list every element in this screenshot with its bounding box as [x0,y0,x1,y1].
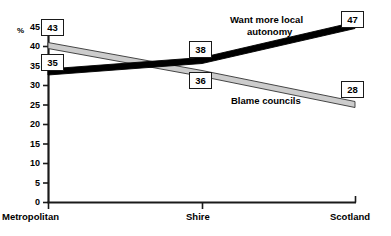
y-tick-label-20: 20 [14,119,40,129]
line-chart: % 45 40 35 30 25 20 15 10 5 0 Metropolit… [0,0,391,236]
data-label-autonomy-scotland: 47 [341,11,364,28]
y-tick-label-15: 15 [14,139,40,149]
x-category-label-metropolitan: Metropolitan [2,211,59,222]
data-label-blame-scotland: 28 [341,81,364,98]
y-tick-label-10: 10 [14,158,40,168]
data-label-autonomy-metropolitan: 35 [41,54,64,71]
y-tick-label-40: 40 [14,41,40,51]
data-label-blame-metropolitan: 43 [41,19,64,36]
y-tick-label-45: 45 [14,22,40,32]
y-tick-label-5: 5 [14,178,40,188]
series-annotation-autonomy-line1: Want more local [230,14,303,25]
x-category-label-shire: Shire [186,211,210,222]
y-tick-label-25: 25 [14,100,40,110]
y-tick-label-0: 0 [14,197,40,207]
data-label-autonomy-shire: 38 [189,41,212,58]
y-tick-label-35: 35 [14,61,40,71]
series-annotation-blame-councils: Blame councils [231,95,301,106]
x-category-label-scotland: Scotland [330,211,370,222]
y-tick-label-30: 30 [14,80,40,90]
series-annotation-autonomy-line2: autonomy [247,26,292,37]
data-label-blame-shire: 36 [189,72,212,89]
